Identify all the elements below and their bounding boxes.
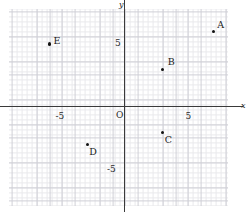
data-point-label-a: A [217,19,224,30]
data-point-e [48,42,51,45]
origin-label: O [116,110,123,120]
coordinate-plane-figure: x y -55-55O ABCDE [0,0,252,216]
data-point-label-e: E [53,35,60,46]
y-axis [124,0,125,212]
x-tick-label: -5 [56,111,65,121]
y-tick-label: -5 [107,164,116,174]
y-axis-label: y [119,0,124,9]
x-axis-label: x [241,101,246,110]
x-axis [0,106,243,107]
data-point-label-c: C [165,134,172,145]
data-point-a [212,30,215,33]
data-point-label-b: B [168,56,175,67]
x-tick-label: 5 [186,111,192,121]
y-tick-label: 5 [115,38,121,48]
data-point-label-d: D [89,146,97,157]
